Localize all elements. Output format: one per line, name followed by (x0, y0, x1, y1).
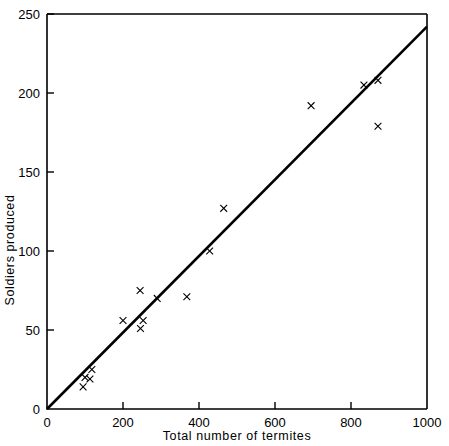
scatter-plot: 050100150200250 02004006008001000 Total … (0, 0, 449, 446)
y-axis-title: Soldiers produced (3, 195, 17, 306)
y-tick-label-150: 150 (18, 165, 40, 180)
x-axis-ticks (123, 402, 351, 409)
x-axis-title: Total number of termites (163, 429, 311, 443)
x-tick-label-600: 600 (264, 415, 286, 430)
y-tick-label-50: 50 (26, 323, 40, 338)
data-point (375, 123, 382, 130)
data-point (140, 317, 147, 324)
data-point (183, 293, 190, 300)
x-tick-label-0: 0 (43, 415, 50, 430)
y-tick-label-250: 250 (18, 7, 40, 22)
axis-frame (47, 14, 427, 409)
data-point (206, 248, 213, 255)
data-point (375, 77, 382, 84)
figure-container: 050100150200250 02004006008001000 Total … (0, 0, 449, 446)
data-point (361, 82, 368, 89)
data-point (220, 205, 227, 212)
data-markers (80, 77, 382, 390)
x-tick-label-400: 400 (188, 415, 210, 430)
axis-spines (47, 14, 427, 409)
regression-line (47, 27, 427, 409)
x-tick-label-200: 200 (112, 415, 134, 430)
data-point (80, 383, 87, 390)
data-point (308, 102, 315, 109)
y-tick-label-200: 200 (18, 86, 40, 101)
data-point (88, 366, 95, 373)
x-tick-label-1000: 1000 (413, 415, 442, 430)
data-point (137, 325, 144, 332)
y-axis-ticks (47, 14, 54, 330)
y-axis-tick-labels: 050100150200250 (18, 7, 40, 417)
x-axis-tick-labels: 02004006008001000 (43, 415, 441, 430)
y-tick-label-100: 100 (18, 244, 40, 259)
data-point (120, 317, 127, 324)
data-point (154, 295, 161, 302)
data-point (82, 374, 89, 381)
y-tick-label-0: 0 (33, 402, 40, 417)
data-point (137, 287, 144, 294)
data-point (87, 376, 94, 383)
x-tick-label-800: 800 (340, 415, 362, 430)
